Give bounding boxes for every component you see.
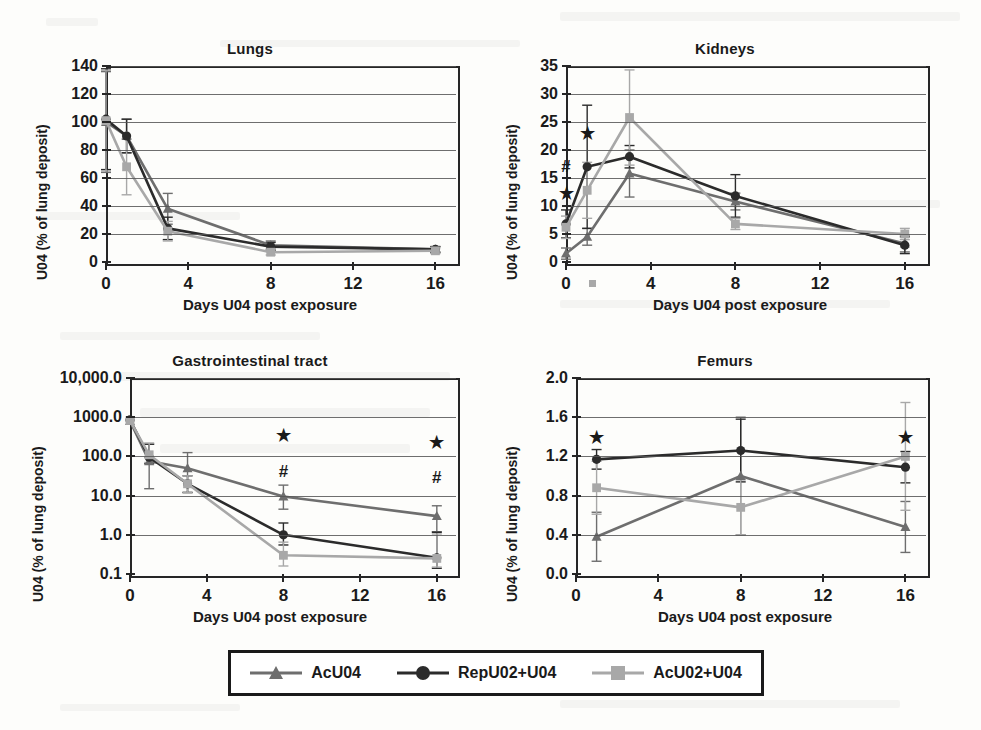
circle-marker-icon xyxy=(397,663,449,683)
y-tick-mark xyxy=(126,455,135,457)
y-tick-mark xyxy=(126,377,135,379)
x-tick-mark xyxy=(904,574,906,582)
x-tick-mark xyxy=(359,574,361,582)
significance-star: ★ xyxy=(559,185,574,202)
grid-line xyxy=(130,535,456,536)
y-tick-mark xyxy=(562,93,571,95)
x-tick-label: 4 xyxy=(184,274,193,294)
x-tick-label: 4 xyxy=(654,586,663,606)
x-tick-mark xyxy=(352,262,354,270)
triangle-marker-icon xyxy=(250,663,302,683)
x-tick-label: 8 xyxy=(731,274,740,294)
legend-item-acu02-u04[interactable]: AcU02+U04 xyxy=(592,663,742,683)
y-tick-label: 0.0 xyxy=(546,565,568,583)
panel-lungs: Lungs U04 (% of lung deposit) Days U04 p… xyxy=(20,40,480,330)
grid-line xyxy=(576,378,926,379)
x-tick-label: 8 xyxy=(279,586,288,606)
y-tick-label: 80 xyxy=(80,141,98,159)
panel-gastrointestinal-tract: Gastrointestinal tract U04 (% of lung de… xyxy=(20,352,480,642)
legend-item-repu02-u04[interactable]: RepU02+U04 xyxy=(397,663,556,683)
x-tick-mark xyxy=(904,262,906,270)
x-tick-label: 4 xyxy=(202,586,211,606)
y-tick-label: 20 xyxy=(80,225,98,243)
significance-hash: # xyxy=(279,463,288,480)
grid-line xyxy=(566,122,926,123)
y-tick-label: 15 xyxy=(540,169,558,187)
x-tick-label: 16 xyxy=(427,586,446,606)
x-tick-label: 12 xyxy=(351,586,370,606)
y-tick-mark xyxy=(102,149,111,151)
grid-line xyxy=(576,535,926,536)
y-tick-mark xyxy=(562,65,571,67)
significance-star: ★ xyxy=(429,434,444,451)
legend-label: AcU02+U04 xyxy=(653,664,742,682)
grid-line xyxy=(566,178,926,179)
y-tick-label: 0 xyxy=(89,253,98,271)
grid-line xyxy=(576,456,926,457)
x-tick-mark xyxy=(105,262,107,270)
scan-artifact xyxy=(60,332,320,340)
x-tick-mark xyxy=(206,574,208,582)
y-tick-label: 40 xyxy=(80,197,98,215)
x-tick-label: 12 xyxy=(814,586,833,606)
x-tick-label: 8 xyxy=(266,274,275,294)
y-tick-label: 140 xyxy=(71,57,98,75)
x-tick-mark xyxy=(187,262,189,270)
y-tick-mark xyxy=(126,416,135,418)
x-tick-label: 12 xyxy=(811,274,830,294)
y-tick-label: 60 xyxy=(80,169,98,187)
significance-star: ★ xyxy=(580,125,595,142)
grid-line xyxy=(106,150,456,151)
y-tick-mark xyxy=(102,205,111,207)
y-tick-label: 0.8 xyxy=(546,487,568,505)
y-tick-mark xyxy=(562,121,571,123)
y-tick-mark xyxy=(572,455,581,457)
y-tick-mark xyxy=(572,534,581,536)
y-tick-mark xyxy=(572,377,581,379)
y-tick-mark xyxy=(572,495,581,497)
x-tick-mark xyxy=(740,574,742,582)
panel-kidneys: Kidneys U04 (% of lung deposit) Days U04… xyxy=(490,40,960,330)
legend: AcU04 RepU02+U04 AcU02+U04 xyxy=(228,650,764,696)
grid-line xyxy=(130,417,456,418)
x-tick-mark xyxy=(282,574,284,582)
x-tick-label: 12 xyxy=(344,274,363,294)
y-tick-label: 100 xyxy=(71,113,98,131)
scan-artifact xyxy=(560,12,960,21)
scan-artifact xyxy=(60,704,240,711)
y-tick-mark xyxy=(562,205,571,207)
y-tick-mark xyxy=(562,149,571,151)
y-tick-mark xyxy=(126,495,135,497)
grid-line xyxy=(566,66,926,67)
grid-line xyxy=(130,378,456,379)
scan-artifact xyxy=(46,18,98,26)
x-tick-mark xyxy=(819,262,821,270)
x-tick-mark xyxy=(434,262,436,270)
grid-line xyxy=(566,206,926,207)
x-tick-label: 16 xyxy=(896,586,915,606)
x-tick-label: 0 xyxy=(561,274,570,294)
grid-line xyxy=(106,178,456,179)
stray-square-marker xyxy=(589,280,596,287)
y-tick-label: 30 xyxy=(540,85,558,103)
y-tick-label: 10,000.0 xyxy=(60,369,122,387)
grid-line xyxy=(576,496,926,497)
significance-star: ★ xyxy=(276,427,291,444)
square-marker-icon xyxy=(592,663,644,683)
legend-item-acu04[interactable]: AcU04 xyxy=(250,663,361,683)
series-svg-gi xyxy=(20,352,480,642)
x-tick-label: 4 xyxy=(646,274,655,294)
x-tick-label: 0 xyxy=(125,586,134,606)
significance-hash: # xyxy=(432,468,441,485)
grid-line xyxy=(130,456,456,457)
figure-root: Lungs U04 (% of lung deposit) Days U04 p… xyxy=(0,0,981,730)
y-tick-label: 1.0 xyxy=(100,526,122,544)
y-tick-label: 35 xyxy=(540,57,558,75)
significance-hash: # xyxy=(561,157,570,174)
x-tick-label: 16 xyxy=(426,274,445,294)
y-tick-label: 1000.0 xyxy=(73,408,122,426)
grid-line xyxy=(566,94,926,95)
grid-line xyxy=(106,122,456,123)
x-tick-mark xyxy=(822,574,824,582)
grid-line xyxy=(106,66,456,67)
